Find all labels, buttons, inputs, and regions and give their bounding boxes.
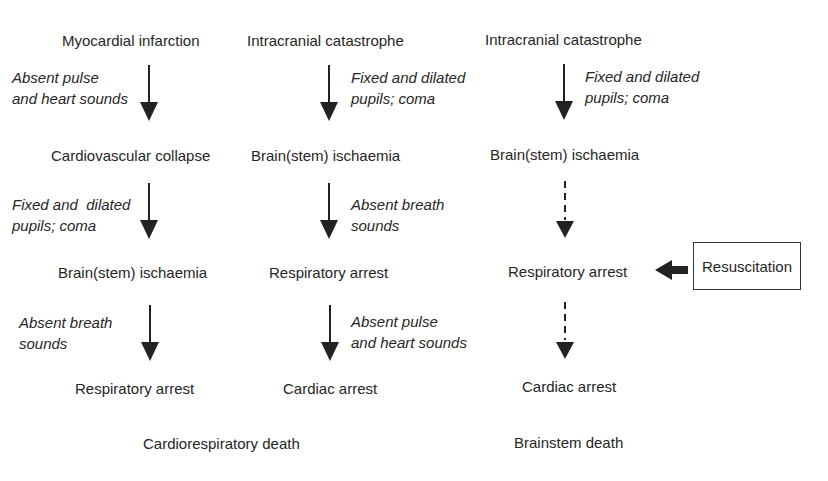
arrow-down-icon — [555, 64, 573, 120]
arrow-left-icon — [655, 260, 688, 280]
dashed-arrow-down-icon — [556, 181, 574, 238]
dashed-arrow-down-icon — [556, 302, 574, 359]
arrow-down-icon — [321, 305, 339, 361]
arrow-down-icon — [320, 183, 338, 239]
arrow-down-icon — [141, 305, 159, 361]
arrow-down-icon — [320, 65, 338, 121]
arrow-down-icon — [140, 65, 158, 121]
arrows-layer — [0, 0, 828, 481]
arrow-down-icon — [140, 183, 158, 239]
